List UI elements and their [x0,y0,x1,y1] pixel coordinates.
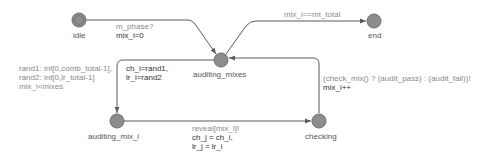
edge-label-sync-reveal: reveal[mix_i]! [192,124,239,133]
edge-label-sync-check-mix: (check_mix() ? (audit_pass) : (audit_fai… [323,74,471,83]
location-label-idle: idle [73,31,85,40]
edge-label-update-ch-i: ch_i=rand1, [126,64,168,73]
edge-label-guard-mix-i-lt-mixes: mix_i<mixes [19,82,63,91]
edge-checking-to-auditing-mixes[interactable] [229,58,319,113]
edge-label-update-ch-j: ch_j = ch_i, [192,133,233,142]
edge-auditing-mixes-to-end[interactable] [226,21,366,54]
edge-label-update-mix-i-increment: mix_i++ [323,83,351,92]
edge-label-select-rand1: rand1: int[0,comb_total-1], [19,64,112,73]
location-idle[interactable] [72,13,86,27]
location-end[interactable] [367,14,381,28]
location-checking[interactable] [312,114,326,128]
location-label-checking: checking [305,132,337,141]
edge-label-update-mix-i-zero: mix_i=0 [116,31,144,40]
location-label-auditing-mix-i: auditing_mix_i [88,132,139,141]
edge-label-guard-mix-i-eq-mt-total: mix_i==mt_total [284,10,340,19]
location-label-auditing-mixes: auditing_mixes [193,70,246,79]
edge-label-sync-m-phase: m_phase? [116,22,153,31]
location-auditing-mix-i[interactable] [110,114,124,128]
edge-label-update-lr-j: lr_j = lr_i [192,142,222,151]
edge-label-select-rand2: rand2: int[0,lr_total-1] [19,73,95,82]
edge-label-update-lr-i: lr_i=rand2 [126,73,162,82]
location-auditing-mixes[interactable] [214,53,228,67]
location-label-end: end [368,31,381,40]
